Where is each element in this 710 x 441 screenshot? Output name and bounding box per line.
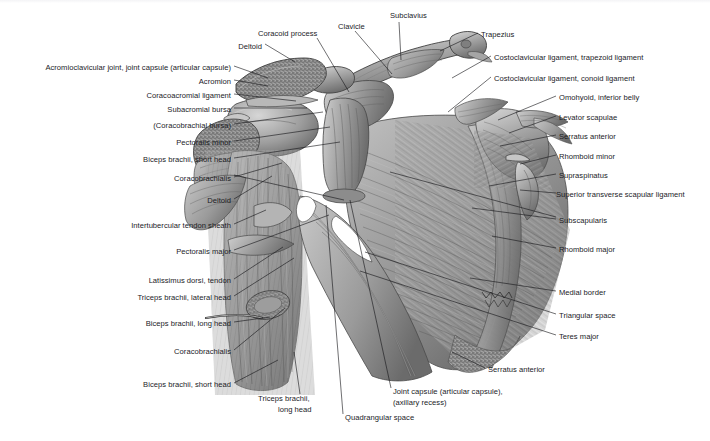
label-costoclavicular-trapezoid: Costoclavicular ligament, trapezoid liga… <box>494 53 643 63</box>
label-triceps-brachii-lateral-head: Triceps brachii, lateral head <box>6 293 231 303</box>
label-acromioclavicular-joint: Acromioclavicular joint, joint capsule (… <box>6 63 231 73</box>
label-pectoralis-major: Pectoralis major <box>6 247 231 257</box>
label-superior-transverse-scapular-ligament: Superior transverse scapular ligament <box>556 190 685 200</box>
label-triangular-space: Triangular space <box>559 311 616 321</box>
label-deltoid-top: Deltoid <box>180 42 262 52</box>
label-acromion: Acromion <box>6 77 231 87</box>
label-coracobrachial-bursa: (Coracobrachial bursa) <box>6 121 231 131</box>
label-clavicle: Clavicle <box>338 22 365 32</box>
label-triceps-brachii-long-head-line1: Triceps brachii, <box>258 394 310 404</box>
label-text-layer: Deltoid Coracoid process Clavicle Subcla… <box>0 0 710 441</box>
label-joint-capsule-line1: Joint capsule (articular capsule), <box>393 387 503 397</box>
label-triceps-brachii-long-head-line2: long head <box>278 405 312 415</box>
label-latissimus-dorsi-tendon: Latissimus dorsi, tendon <box>6 276 231 286</box>
label-quadrangular-space: Quadrangular space <box>345 413 414 423</box>
label-serratus-anterior-lower: Serratus anterior <box>488 365 545 375</box>
label-medial-border: Medial border <box>559 288 606 298</box>
label-coracobrachialis-lower: Coracobrachialis <box>6 347 231 357</box>
label-subclavius: Subclavius <box>390 11 427 21</box>
label-subscapularis: Subscapularis <box>559 216 607 226</box>
label-biceps-brachii-long-head: Biceps brachii, long head <box>6 319 231 329</box>
label-coracobrachialis-upper: Coracobrachialis <box>6 174 231 184</box>
anatomy-figure-page: Deltoid Coracoid process Clavicle Subcla… <box>0 0 710 441</box>
label-rhomboid-minor: Rhomboid minor <box>559 152 615 162</box>
label-biceps-brachii-short-head-upper: Biceps brachii, short head <box>6 155 231 165</box>
label-pectoralis-minor: Pectoralis minor <box>6 138 231 148</box>
label-coracoacromial-ligament: Coracoacromial ligament <box>6 91 231 101</box>
label-costoclavicular-conoid: Costoclavicular ligament, conoid ligamen… <box>494 74 635 84</box>
label-coracoid-process: Coracoid process <box>258 29 317 39</box>
label-levator-scapulae: Levator scapulae <box>559 113 617 123</box>
label-trapezius: Trapezius <box>481 30 514 40</box>
label-joint-capsule-line2: (axillary recess) <box>393 398 447 408</box>
label-deltoid-left: Deltoid <box>6 196 231 206</box>
label-teres-major: Teres major <box>559 332 599 342</box>
label-supraspinatus: Supraspinatus <box>559 171 608 181</box>
label-biceps-brachii-short-head-lower: Biceps brachii, short head <box>6 380 231 390</box>
label-rhomboid-major: Rhomboid major <box>559 245 615 255</box>
label-omohyoid-inferior-belly: Omohyoid, inferior belly <box>559 93 639 103</box>
label-subacromial-bursa: Subacromial bursa <box>6 105 231 115</box>
label-intertubercular-tendon-sheath: Intertubercular tendon sheath <box>6 221 231 231</box>
label-serratus-anterior-upper: Serratus anterior <box>559 132 616 142</box>
